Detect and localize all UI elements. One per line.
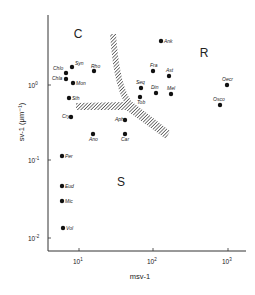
x-tick-1e2: 102 [147, 257, 157, 265]
point-marker [169, 92, 173, 96]
point-marker [154, 91, 158, 95]
data-point-syn: Syn [70, 60, 84, 69]
point-marker [64, 71, 68, 75]
point-label: Ast [165, 67, 174, 73]
point-marker [139, 86, 143, 90]
point-label: Per [65, 153, 73, 159]
point-label: Chlo [53, 65, 64, 71]
data-point-mic: Mic [60, 198, 73, 204]
data-point-per: Per [60, 153, 73, 159]
data-point-ank: Ank [159, 38, 173, 44]
x-tick-1e1: 101 [73, 257, 83, 265]
data-point-oecr: Oecr [222, 76, 233, 87]
data-point-sth: Sth [67, 95, 80, 101]
data-point-chla: Chla [52, 75, 68, 81]
data-point-mel: Mel [167, 85, 176, 96]
scatter-chart: 100 10-1 10-2 101 102 103 msv-1 sv-1 (μm… [0, 0, 255, 295]
point-label: Aph [114, 116, 124, 122]
data-point-ano: Ano [88, 132, 98, 142]
point-label: Mic [65, 198, 73, 204]
point-label: Ano [88, 136, 98, 142]
data-point-osco: Osco [213, 96, 225, 107]
point-label: Car [121, 136, 129, 142]
data-point-tob: Tob [137, 95, 145, 105]
point-label: Rho [91, 63, 100, 69]
point-label: Osco [213, 96, 225, 102]
data-point-vol: Vol [61, 225, 74, 231]
point-marker [71, 81, 75, 85]
region-label-r: R [200, 46, 209, 60]
point-marker [151, 69, 155, 73]
point-label: Chla [52, 75, 63, 81]
point-marker [218, 103, 222, 107]
x-tick-1e3: 103 [222, 257, 232, 265]
point-label: Sth [72, 95, 80, 101]
point-marker [225, 83, 229, 87]
axes [48, 15, 246, 251]
y-tick-1e-2: 10-2 [28, 234, 40, 242]
point-marker [67, 96, 71, 100]
point-marker [64, 77, 68, 81]
point-label: Tob [137, 99, 145, 105]
point-marker [60, 154, 64, 158]
point-label: Mon [76, 80, 86, 86]
data-point-seq: Seq [136, 79, 145, 90]
point-label: Eud [65, 183, 74, 189]
data-point-ast: Ast [165, 67, 174, 78]
point-label: Seq [136, 79, 145, 85]
point-label: Ank [163, 38, 173, 44]
point-label: Cry [62, 113, 70, 119]
point-label: Vol [66, 225, 74, 231]
data-point-fra: Fra [150, 62, 158, 73]
point-label: Syn [75, 60, 84, 66]
data-point-mon: Mon [71, 80, 86, 86]
y-tick-1e-1: 10-1 [28, 156, 40, 164]
data-point-chlo: Chlo [53, 65, 68, 75]
data-point-car: Car [121, 132, 129, 142]
region-label-c: C [74, 27, 83, 41]
point-marker [159, 39, 163, 43]
data-point-cry: Cry [62, 113, 73, 119]
point-label: Oecr [222, 76, 233, 82]
point-label: Din [151, 84, 159, 90]
point-label: Mel [167, 85, 176, 91]
point-marker [61, 226, 65, 230]
x-axis-label: msv-1 [130, 272, 150, 281]
y-tick-1e0: 100 [28, 81, 38, 89]
y-axis-label: sv-1 (μm⁻¹) [17, 102, 26, 141]
point-marker [60, 184, 64, 188]
point-marker [60, 199, 64, 203]
data-point-aph: Aph [114, 116, 127, 122]
point-marker [92, 69, 96, 73]
point-label: Fra [150, 62, 158, 68]
data-points: ChloChlaSynRhoMonSthCryAnoAphCarAnkFraAs… [52, 38, 233, 231]
region-label-s: S [117, 175, 125, 189]
data-point-eud: Eud [60, 183, 74, 189]
point-marker [70, 65, 74, 69]
data-point-rho: Rho [91, 63, 100, 73]
point-marker [167, 74, 171, 78]
data-point-din: Din [151, 84, 159, 95]
